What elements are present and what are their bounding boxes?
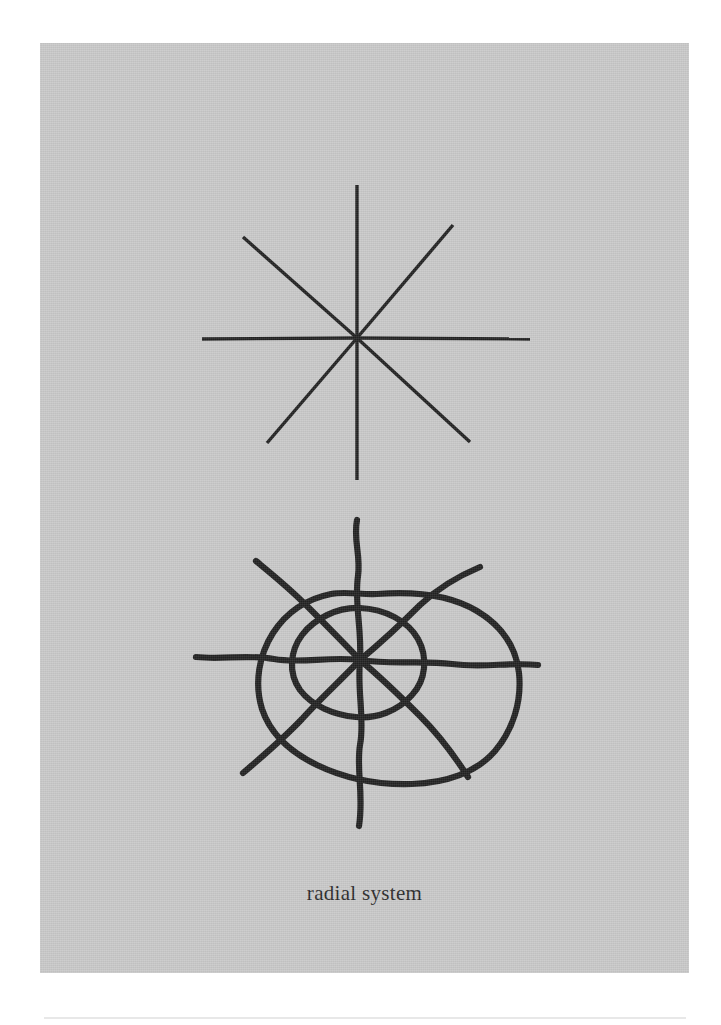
web-spoke-north [356,520,360,660]
web-spoke-west [196,657,360,661]
next-page-edge [44,1017,686,1019]
figure-caption: radial system [40,881,689,906]
web-center-node [353,653,367,667]
web-diagram [40,43,689,973]
web-spoke-east [360,660,538,665]
scan-sheet: radial system [0,0,721,1025]
web-spoke-south [359,660,362,826]
scanned-page: radial system [40,43,689,973]
